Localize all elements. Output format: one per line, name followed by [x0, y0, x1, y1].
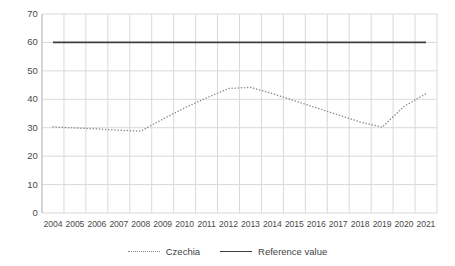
- x-tick-label: 2005: [64, 218, 86, 232]
- plot-area: [42, 14, 437, 213]
- x-tick-label: 2015: [283, 218, 305, 232]
- x-tick-label: 2008: [130, 218, 152, 232]
- x-tick-label: 2009: [152, 218, 174, 232]
- series-line-czechia: [53, 87, 426, 131]
- x-tick-label: 2021: [415, 218, 437, 232]
- legend-entry[interactable]: Reference value: [220, 246, 327, 257]
- x-axis: 2004200520062007200820092010201120122013…: [42, 218, 437, 232]
- x-tick-label: 2007: [108, 218, 130, 232]
- x-tick-label: 2016: [305, 218, 327, 232]
- x-tick-label: 2020: [393, 218, 415, 232]
- x-tick-label: 2014: [261, 218, 283, 232]
- legend-label: Reference value: [258, 246, 327, 257]
- y-tick-label: 10: [2, 180, 38, 190]
- y-axis: 706050403020100: [0, 0, 38, 266]
- solid-line-swatch: [220, 247, 252, 256]
- line-chart: 706050403020100 200420052006200720082009…: [0, 0, 455, 266]
- x-tick-label: 2018: [349, 218, 371, 232]
- x-tick-label: 2017: [327, 218, 349, 232]
- x-tick-label: 2012: [218, 218, 240, 232]
- dotted-line-swatch: [128, 247, 160, 256]
- legend-label: Czechia: [166, 246, 200, 257]
- x-tick-label: 2011: [196, 218, 218, 232]
- y-tick-label: 50: [2, 66, 38, 76]
- x-tick-label: 2013: [239, 218, 261, 232]
- y-tick-label: 60: [2, 37, 38, 47]
- x-tick-label: 2004: [42, 218, 64, 232]
- chart-legend: CzechiaReference value: [0, 243, 455, 259]
- x-tick-label: 2019: [371, 218, 393, 232]
- y-tick-label: 0: [2, 208, 38, 218]
- y-tick-label: 40: [2, 94, 38, 104]
- legend-entry[interactable]: Czechia: [128, 246, 200, 257]
- x-tick-label: 2006: [86, 218, 108, 232]
- y-tick-label: 20: [2, 151, 38, 161]
- x-tick-label: 2010: [174, 218, 196, 232]
- y-tick-label: 70: [2, 9, 38, 19]
- data-series-layer: [42, 14, 437, 213]
- y-tick-label: 30: [2, 123, 38, 133]
